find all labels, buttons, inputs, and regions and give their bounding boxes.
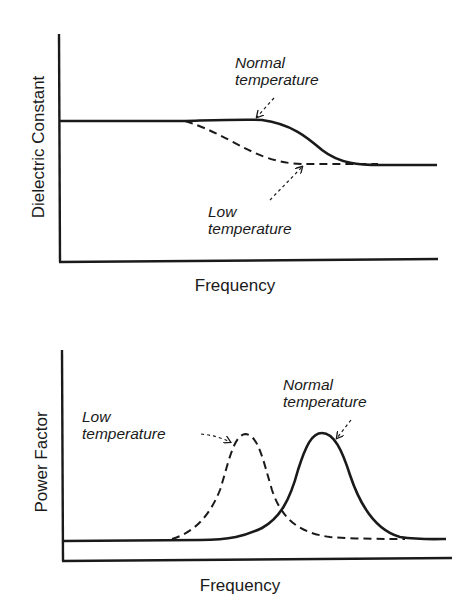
top-normal-arrow-icon bbox=[257, 98, 274, 117]
low-temperature-curve bbox=[172, 434, 405, 539]
bottom-normal-arrow-icon bbox=[337, 420, 351, 438]
normal-temperature-curve bbox=[63, 433, 446, 541]
bottom-low-label-line2: temperature bbox=[82, 425, 166, 442]
y-axis bbox=[59, 34, 60, 262]
bottom-low-arrow-icon bbox=[201, 434, 230, 442]
bottom-normal-label-line2: temperature bbox=[283, 393, 367, 410]
low-temperature-curve bbox=[185, 121, 378, 164]
x-axis bbox=[62, 558, 452, 561]
top-normal-label-line2: temperature bbox=[235, 71, 319, 88]
top-y-axis-title: Dielectric Constant bbox=[29, 75, 48, 218]
top-low-label-line1: Low bbox=[208, 203, 238, 220]
top-x-axis-title: Frequency bbox=[195, 276, 276, 295]
figure: Normal temperature Low temperature Frequ… bbox=[0, 0, 471, 607]
dielectric-constant-chart: Normal temperature Low temperature Frequ… bbox=[29, 34, 438, 295]
x-axis bbox=[59, 259, 438, 262]
top-normal-label-line1: Normal bbox=[235, 54, 286, 71]
normal-temperature-curve bbox=[60, 120, 437, 165]
bottom-y-axis-title: Power Factor bbox=[32, 411, 51, 512]
y-axis bbox=[62, 350, 63, 561]
power-factor-chart: Low temperature Normal temperature Frequ… bbox=[32, 350, 452, 595]
bottom-x-axis-title: Frequency bbox=[200, 576, 281, 595]
bottom-normal-label-line1: Normal bbox=[283, 376, 334, 393]
bottom-low-label-line1: Low bbox=[82, 408, 112, 425]
top-low-arrow-icon bbox=[270, 167, 302, 200]
top-low-label-line2: temperature bbox=[208, 220, 292, 237]
